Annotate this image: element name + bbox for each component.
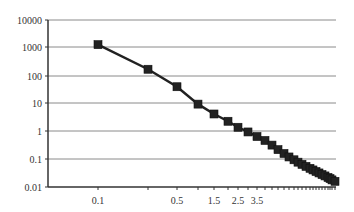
y-tick-label: 0.01 xyxy=(25,182,43,193)
y-tick-label: 10 xyxy=(32,98,42,109)
square-marker xyxy=(244,128,252,136)
square-marker xyxy=(331,177,339,185)
x-tick-label: 2.5 xyxy=(232,195,245,206)
square-marker xyxy=(173,83,181,91)
x-tick-label: 1.5 xyxy=(208,195,221,206)
square-marker xyxy=(253,133,261,141)
x-tick-labels: 0.10.51.52.53.5 xyxy=(92,195,264,206)
x-tick-label: 0.5 xyxy=(171,195,184,206)
y-tick-labels: 1000010001001010.10.01 xyxy=(17,15,48,193)
horizontal-gridlines xyxy=(48,20,336,159)
square-marker xyxy=(210,110,218,118)
log-line-chart: 1000010001001010.10.01 0.10.51.52.53.5 xyxy=(0,0,354,212)
data-series xyxy=(94,41,339,186)
y-tick-label: 0.1 xyxy=(30,154,43,165)
square-marker xyxy=(234,123,242,131)
square-marker xyxy=(194,100,202,108)
y-tick-label: 100 xyxy=(27,71,42,82)
square-marker xyxy=(144,65,152,73)
y-tick-label: 10000 xyxy=(17,15,42,26)
x-tick-label: 0.1 xyxy=(92,195,105,206)
square-marker xyxy=(94,41,102,49)
x-tick-label: 3.5 xyxy=(251,195,264,206)
y-tick-label: 1000 xyxy=(22,42,42,53)
square-marker xyxy=(224,117,232,125)
y-tick-label: 1 xyxy=(37,126,42,137)
